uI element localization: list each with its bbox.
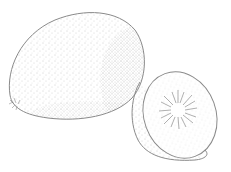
halved-kiwi — [131, 61, 229, 168]
kiwi-illustration — [0, 0, 231, 172]
